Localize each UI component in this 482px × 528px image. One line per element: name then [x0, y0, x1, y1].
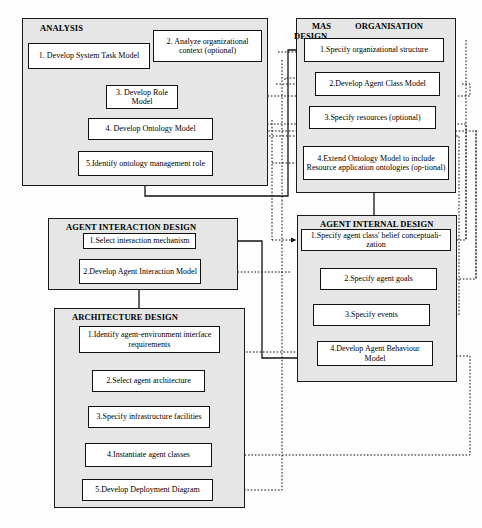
node-analyze-organizational-context[interactable]: 2. Analyze organizational context (optio… [153, 30, 262, 62]
node-label: 4.Develop Agent Behaviour Model [320, 344, 430, 363]
node-label: 3.Specify events [316, 310, 427, 319]
node-label: 1.Specify agent class' belief conceptual… [304, 231, 448, 250]
node-label: 3. Develop Role Model [109, 88, 175, 107]
node-specify-events[interactable]: 3.Specify events [313, 304, 430, 326]
node-specify-agent-goals[interactable]: 2.Specify agent goals [320, 268, 437, 290]
node-develop-role-model[interactable]: 3. Develop Role Model [106, 85, 178, 109]
node-specify-agent-class-belief-conceptualization[interactable]: 1.Specify agent class' belief conceptual… [301, 229, 451, 251]
node-label: 5.Identify ontology management role [81, 159, 210, 168]
node-label: 1. Develop System Task Model [31, 51, 147, 60]
panel-analysis-title: ANALYSIS [40, 23, 83, 33]
node-label: 1.Specify organizational structure [307, 45, 441, 54]
node-label: 2.Develop Agent Class Model [318, 79, 437, 88]
node-label: 3.Specify infrastructure facilities [91, 412, 207, 421]
node-label: 2.Specify agent goals [323, 274, 434, 283]
panel-architecture-title: ARCHITECTURE DESIGN [72, 312, 178, 322]
node-select-agent-architecture[interactable]: 2.Select agent architecture [92, 370, 205, 392]
panel-agent-interaction-title: AGENT INTERACTION DESIGN [66, 222, 196, 232]
node-specify-resources[interactable]: 3.Specify resources (optional) [309, 106, 436, 129]
node-develop-ontology-model[interactable]: 4. Develop Ontology Model [88, 118, 213, 140]
node-label: 4. Develop Ontology Model [91, 124, 210, 133]
panel-mas-title-mas: MAS [312, 21, 331, 31]
node-specify-infrastructure-facilities[interactable]: 3.Specify infrastructure facilities [88, 406, 210, 428]
node-label: 5.Develop Deployment Diagram [85, 485, 210, 494]
node-label: 2.Select agent architecture [95, 376, 202, 385]
diagram-canvas: ANALYSIS MAS ORGANISATION DESIGN AGENT I… [0, 0, 482, 528]
node-develop-agent-class-model[interactable]: 2.Develop Agent Class Model [315, 72, 440, 96]
node-identify-ontology-management-role[interactable]: 5.Identify ontology management role [78, 151, 213, 176]
node-develop-agent-interaction-model[interactable]: 2.Develop Agent Interaction Model [79, 259, 201, 284]
node-label: 4.Instantiate agent classes [88, 450, 209, 459]
node-extend-ontology-model[interactable]: 4.Extend Ontology Model to include Resou… [303, 146, 449, 180]
node-develop-system-task-model[interactable]: 1. Develop System Task Model [28, 43, 150, 69]
node-label: 4.Extend Ontology Model to include Resou… [306, 154, 446, 173]
node-develop-agent-behaviour-model[interactable]: 4.Develop Agent Behaviour Model [317, 341, 433, 366]
node-select-interaction-mechanism[interactable]: 1.Select interaction mechanism [83, 233, 196, 249]
node-label: 1.Identify agent-environment interface r… [82, 330, 217, 349]
node-instantiate-agent-classes[interactable]: 4.Instantiate agent classes [85, 443, 212, 467]
panel-mas-title-organisation: ORGANISATION [355, 21, 423, 31]
node-label: 2. Analyze organizational context (optio… [156, 37, 259, 56]
node-identify-agent-environment-interface-requirements[interactable]: 1.Identify agent-environment interface r… [79, 326, 220, 353]
node-develop-deployment-diagram[interactable]: 5.Develop Deployment Diagram [82, 479, 213, 501]
panel-agent-internal-title: AGENT INTERNAL DESIGN [320, 219, 433, 229]
node-specify-organizational-structure[interactable]: 1.Specify organizational structure [304, 38, 444, 62]
node-label: 1.Select interaction mechanism [86, 236, 193, 245]
node-label: 3.Specify resources (optional) [312, 113, 433, 122]
node-label: 2.Develop Agent Interaction Model [82, 267, 198, 276]
